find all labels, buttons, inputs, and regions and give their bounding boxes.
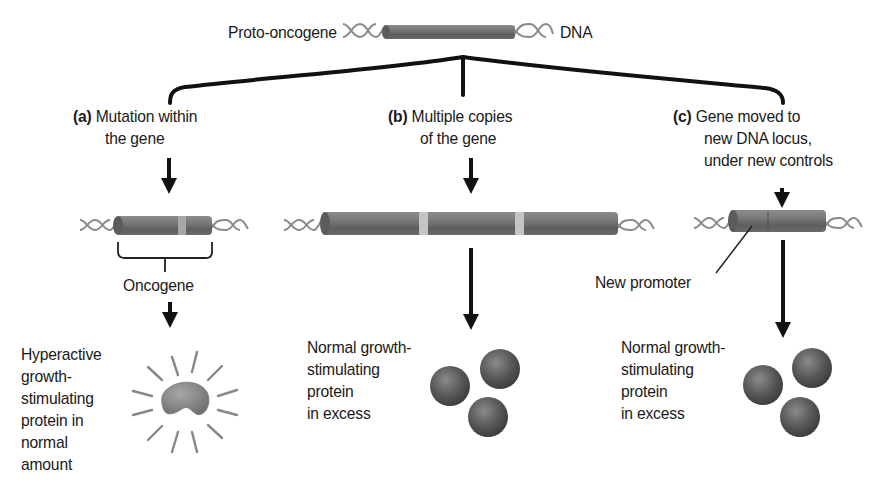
promoter-pointer <box>716 226 752 273</box>
hyperactive-protein-icon <box>133 352 237 452</box>
new-promoter-label: New promoter <box>595 272 691 293</box>
result-b-line1: Normal growth- <box>307 337 411 358</box>
branch-c-heading-line2: new DNA locus, <box>704 128 812 149</box>
result-a-line5: normal <box>21 432 68 453</box>
diagram-graphics <box>0 0 888 500</box>
protein-cluster-c-icon <box>743 348 832 437</box>
dna-helix-right-icon <box>515 24 553 37</box>
branch-b-heading-line2: of the gene <box>420 128 496 149</box>
branch-lines <box>170 57 783 103</box>
branch-a-heading: (a) Mutation within <box>73 106 197 127</box>
result-b-line2: stimulating <box>307 359 380 380</box>
result-c-line1: Normal growth- <box>621 337 725 358</box>
result-a-line2: growth- <box>21 366 72 387</box>
result-b-line4: in excess <box>307 403 371 424</box>
oncogene-label: Oncogene <box>123 275 194 296</box>
branch-c-tag: (c) <box>673 107 692 126</box>
relocated-dna-c <box>694 210 862 273</box>
proto-oncogene-label: Proto-oncogene <box>228 22 337 43</box>
branch-a-tag: (a) <box>73 107 92 126</box>
dna-helix-left-icon <box>343 24 385 37</box>
dna-label: DNA <box>560 22 592 43</box>
branch-a-heading-line2: the gene <box>105 128 164 149</box>
branch-b-tag: (b) <box>388 107 407 126</box>
result-b-line3: protein <box>307 381 354 402</box>
result-a-line6: amount <box>21 454 72 475</box>
top-dna-gene <box>343 24 553 39</box>
oncogene-bracket <box>118 242 212 272</box>
branch-c-heading-line3: under new controls <box>704 150 833 171</box>
result-c-line2: stimulating <box>621 359 694 380</box>
protein-cluster-b-icon <box>430 349 520 437</box>
result-c-line3: protein <box>621 381 668 402</box>
result-a-line3: stimulating <box>21 388 94 409</box>
oncogene-dna-a <box>80 216 248 272</box>
branch-b-heading: (b) Multiple copies <box>388 106 512 127</box>
result-a-line1: Hyperactive <box>21 344 102 365</box>
result-c-line4: in excess <box>621 403 685 424</box>
amplified-dna-b <box>284 212 654 235</box>
arrows <box>169 158 783 330</box>
branch-c-heading: (c) Gene moved to <box>673 106 800 127</box>
result-a-line4: protein in <box>21 410 84 431</box>
